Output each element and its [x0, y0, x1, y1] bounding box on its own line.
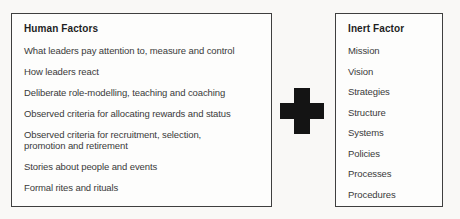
inert-factor-item: Systems — [348, 127, 436, 138]
plus-vertical-bar — [294, 88, 310, 134]
inert-factor-item-list: MissionVisionStrategiesStructureSystemsP… — [348, 45, 436, 200]
human-factors-title: Human Factors — [24, 23, 265, 34]
inert-factor-item: Mission — [348, 45, 436, 56]
plus-icon — [280, 88, 324, 134]
inert-factor-item: Policies — [348, 148, 436, 159]
inert-factor-item: Procedures — [348, 189, 436, 200]
human-factors-item: Deliberate role-modelling, teaching and … — [24, 87, 265, 98]
inert-factor-item: Strategies — [348, 86, 436, 97]
inert-factor-panel: Inert Factor MissionVisionStrategiesStru… — [335, 13, 443, 207]
human-factors-panel: Human Factors What leaders pay attention… — [11, 13, 272, 207]
inert-factor-item: Vision — [348, 66, 436, 77]
human-factors-item: Stories about people and events — [24, 161, 265, 172]
inert-factor-item: Structure — [348, 107, 436, 118]
human-factors-item: What leaders pay attention to, measure a… — [24, 45, 265, 56]
human-factors-item: How leaders react — [24, 66, 265, 77]
human-factors-item: Observed criteria for recruitment, selec… — [24, 129, 265, 151]
human-factors-item: Observed criteria for allocating rewards… — [24, 108, 265, 119]
human-factors-item-list: What leaders pay attention to, measure a… — [24, 45, 265, 193]
human-factors-item: Formal rites and rituals — [24, 182, 265, 193]
inert-factor-item: Processes — [348, 168, 436, 179]
inert-factor-title: Inert Factor — [348, 23, 436, 34]
diagram-canvas: Human Factors What leaders pay attention… — [0, 0, 460, 219]
